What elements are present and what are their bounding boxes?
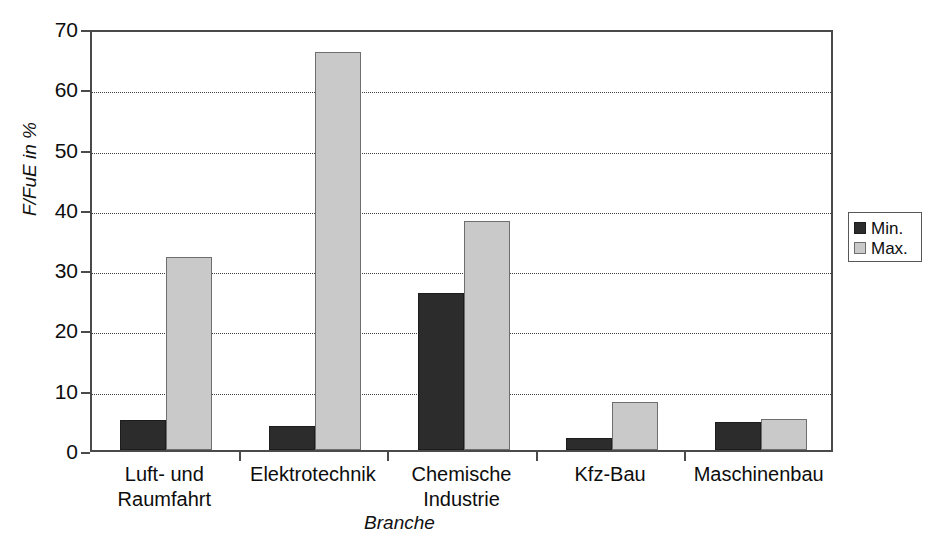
legend-item-min[interactable]: Min.: [854, 218, 921, 238]
y-axis-tick-label: 70: [30, 19, 78, 40]
y-axis-tick-mark: [81, 452, 90, 454]
bar-max[interactable]: [166, 257, 212, 450]
y-axis-tick-mark: [81, 90, 90, 92]
y-axis-tick-mark: [81, 331, 90, 333]
x-axis-category-label: Chemische Industrie: [387, 462, 536, 512]
x-axis-category-label: Elektrotechnik: [239, 462, 388, 487]
y-axis-tick-label: 30: [30, 260, 78, 281]
x-axis-tick-mark: [684, 452, 686, 461]
x-axis-category-label: Maschinenbau: [684, 462, 833, 487]
legend-swatch-min-icon: [854, 222, 866, 234]
y-axis-tick-label: 20: [30, 320, 78, 341]
bar-chart: F/FuE in % 010203040506070 Luft- und Rau…: [0, 0, 939, 552]
bar-max[interactable]: [761, 419, 807, 450]
legend-item-max[interactable]: Max.: [854, 238, 921, 258]
legend-label-max: Max.: [871, 240, 908, 257]
y-axis-tick-label: 0: [30, 441, 78, 462]
y-axis-tick-mark: [81, 271, 90, 273]
bars-layer: [92, 32, 831, 450]
y-axis-tick-mark: [81, 151, 90, 153]
x-axis-tick-mark: [536, 452, 538, 461]
chart-legend: Min. Max.: [848, 212, 922, 262]
bar-min[interactable]: [269, 426, 315, 450]
plot-area: [90, 30, 833, 452]
y-axis-tick-label: 40: [30, 200, 78, 221]
y-axis-tick-label: 60: [30, 79, 78, 100]
bar-min[interactable]: [715, 422, 761, 450]
bar-min[interactable]: [120, 420, 166, 450]
y-axis-tick-mark: [81, 211, 90, 213]
legend-swatch-max-icon: [854, 242, 866, 254]
y-axis-tick-label: 50: [30, 140, 78, 161]
bar-max[interactable]: [315, 52, 361, 450]
bar-max[interactable]: [612, 402, 658, 450]
bar-max[interactable]: [464, 221, 510, 450]
bar-min[interactable]: [566, 438, 612, 450]
y-axis-tick-mark: [81, 30, 90, 32]
bar-min[interactable]: [418, 293, 464, 450]
y-axis-tick-mark: [81, 392, 90, 394]
y-axis-tick-label: 10: [30, 381, 78, 402]
x-axis-category-label: Luft- und Raumfahrt: [90, 462, 239, 512]
x-axis-category-label: Kfz-Bau: [536, 462, 685, 487]
x-axis-tick-mark: [387, 452, 389, 461]
legend-label-min: Min.: [871, 220, 903, 237]
x-axis-tick-mark: [239, 452, 241, 461]
x-axis-title: Branche: [0, 512, 869, 534]
